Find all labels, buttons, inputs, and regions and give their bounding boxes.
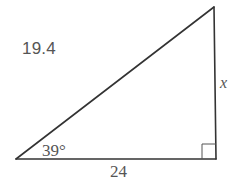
right-triangle-diagram [0,0,231,181]
angle-label: 39° [42,141,66,161]
vertical-side [214,7,216,159]
hypotenuse [16,7,214,159]
problem-number: 19.4 [22,39,56,59]
right-angle-marker [202,144,216,159]
unknown-side-label: x [220,74,227,92]
base-length-label: 24 [110,162,127,181]
